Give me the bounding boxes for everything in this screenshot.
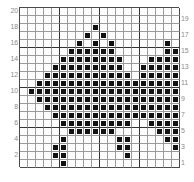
grid-cell-empty[interactable] bbox=[116, 128, 124, 136]
grid-cell-filled[interactable] bbox=[76, 88, 84, 96]
grid-cell-empty[interactable] bbox=[28, 16, 36, 24]
grid-cell-empty[interactable] bbox=[52, 32, 60, 40]
grid-cell-empty[interactable] bbox=[68, 24, 76, 32]
grid-cell-filled[interactable] bbox=[116, 72, 124, 80]
grid-cell-empty[interactable] bbox=[60, 32, 68, 40]
grid-cell-empty[interactable] bbox=[140, 16, 148, 24]
grid-cell-empty[interactable] bbox=[116, 48, 124, 56]
grid-cell-empty[interactable] bbox=[20, 152, 28, 160]
grid-cell-empty[interactable] bbox=[28, 112, 36, 120]
grid-cell-empty[interactable] bbox=[36, 48, 44, 56]
grid-cell-empty[interactable] bbox=[60, 16, 68, 24]
grid-cell-filled[interactable] bbox=[60, 88, 68, 96]
grid-cell-empty[interactable] bbox=[36, 144, 44, 152]
grid-cell-filled[interactable] bbox=[124, 112, 132, 120]
grid-cell-filled[interactable] bbox=[156, 56, 164, 64]
grid-cell-filled[interactable] bbox=[124, 152, 132, 160]
grid-cell-empty[interactable] bbox=[60, 24, 68, 32]
grid-cell-filled[interactable] bbox=[156, 120, 164, 128]
grid-cell-empty[interactable] bbox=[140, 40, 148, 48]
grid-cell-filled[interactable] bbox=[76, 128, 84, 136]
grid-cell-empty[interactable] bbox=[44, 16, 52, 24]
grid-cell-empty[interactable] bbox=[108, 160, 116, 168]
grid-cell-empty[interactable] bbox=[36, 160, 44, 168]
grid-cell-empty[interactable] bbox=[44, 112, 52, 120]
grid-cell-empty[interactable] bbox=[20, 120, 28, 128]
grid-cell-empty[interactable] bbox=[36, 24, 44, 32]
grid-cell-filled[interactable] bbox=[116, 144, 124, 152]
grid-cell-filled[interactable] bbox=[100, 32, 108, 40]
grid-cell-empty[interactable] bbox=[44, 40, 52, 48]
grid-cell-empty[interactable] bbox=[52, 24, 60, 32]
grid-cell-empty[interactable] bbox=[36, 64, 44, 72]
grid-cell-filled[interactable] bbox=[100, 112, 108, 120]
grid-cell-empty[interactable] bbox=[148, 48, 156, 56]
grid-cell-empty[interactable] bbox=[100, 16, 108, 24]
grid-cell-filled[interactable] bbox=[84, 80, 92, 88]
grid-cell-empty[interactable] bbox=[100, 160, 108, 168]
grid-cell-empty[interactable] bbox=[52, 56, 60, 64]
grid-cell-filled[interactable] bbox=[164, 72, 172, 80]
grid-cell-empty[interactable] bbox=[20, 128, 28, 136]
grid-cell-empty[interactable] bbox=[148, 160, 156, 168]
grid-cell-empty[interactable] bbox=[116, 160, 124, 168]
grid-cell-empty[interactable] bbox=[28, 160, 36, 168]
grid-cell-filled[interactable] bbox=[60, 120, 68, 128]
grid-cell-empty[interactable] bbox=[124, 64, 132, 72]
grid-cell-filled[interactable] bbox=[140, 72, 148, 80]
grid-cell-filled[interactable] bbox=[164, 48, 172, 56]
grid-cell-filled[interactable] bbox=[156, 128, 164, 136]
grid-cell-empty[interactable] bbox=[156, 144, 164, 152]
grid-cell-empty[interactable] bbox=[132, 120, 140, 128]
grid-cell-empty[interactable] bbox=[20, 48, 28, 56]
grid-cell-filled[interactable] bbox=[44, 88, 52, 96]
grid-cell-filled[interactable] bbox=[100, 80, 108, 88]
grid-cell-empty[interactable] bbox=[44, 8, 52, 16]
grid-cell-empty[interactable] bbox=[28, 56, 36, 64]
grid-cell-filled[interactable] bbox=[108, 72, 116, 80]
grid-cell-empty[interactable] bbox=[140, 120, 148, 128]
grid-cell-filled[interactable] bbox=[116, 80, 124, 88]
grid-cell-filled[interactable] bbox=[108, 120, 116, 128]
grid-cell-empty[interactable] bbox=[156, 40, 164, 48]
grid-cell-filled[interactable] bbox=[68, 80, 76, 88]
grid-cell-filled[interactable] bbox=[68, 64, 76, 72]
grid-cell-empty[interactable] bbox=[20, 72, 28, 80]
grid-cell-empty[interactable] bbox=[140, 160, 148, 168]
grid-cell-filled[interactable] bbox=[76, 64, 84, 72]
grid-cell-empty[interactable] bbox=[68, 32, 76, 40]
grid-cell-empty[interactable] bbox=[52, 16, 60, 24]
grid-cell-filled[interactable] bbox=[172, 120, 180, 128]
grid-cell-empty[interactable] bbox=[28, 104, 36, 112]
grid-cell-filled[interactable] bbox=[84, 128, 92, 136]
grid-cell-empty[interactable] bbox=[36, 40, 44, 48]
grid-cell-filled[interactable] bbox=[164, 88, 172, 96]
grid-cell-empty[interactable] bbox=[132, 8, 140, 16]
grid-cell-empty[interactable] bbox=[60, 40, 68, 48]
grid-cell-filled[interactable] bbox=[148, 120, 156, 128]
grid-cell-filled[interactable] bbox=[172, 144, 180, 152]
grid-cell-filled[interactable] bbox=[76, 48, 84, 56]
grid-cell-filled[interactable] bbox=[84, 32, 92, 40]
grid-cell-empty[interactable] bbox=[52, 40, 60, 48]
grid-cell-filled[interactable] bbox=[44, 80, 52, 88]
grid-cell-empty[interactable] bbox=[132, 64, 140, 72]
grid-cell-empty[interactable] bbox=[92, 32, 100, 40]
grid-cell-filled[interactable] bbox=[156, 112, 164, 120]
grid-cell-empty[interactable] bbox=[76, 8, 84, 16]
grid-cell-filled[interactable] bbox=[92, 112, 100, 120]
grid-cell-filled[interactable] bbox=[60, 72, 68, 80]
grid-cell-empty[interactable] bbox=[124, 8, 132, 16]
grid-cell-filled[interactable] bbox=[108, 128, 116, 136]
grid-cell-empty[interactable] bbox=[148, 24, 156, 32]
grid-cell-empty[interactable] bbox=[116, 16, 124, 24]
grid-cell-filled[interactable] bbox=[124, 96, 132, 104]
grid-cell-filled[interactable] bbox=[124, 104, 132, 112]
grid-cell-filled[interactable] bbox=[92, 96, 100, 104]
grid-cell-empty[interactable] bbox=[52, 128, 60, 136]
grid-cell-filled[interactable] bbox=[100, 72, 108, 80]
grid-cell-empty[interactable] bbox=[84, 24, 92, 32]
grid-cell-empty[interactable] bbox=[140, 8, 148, 16]
grid-cell-empty[interactable] bbox=[172, 40, 180, 48]
grid-cell-empty[interactable] bbox=[132, 136, 140, 144]
